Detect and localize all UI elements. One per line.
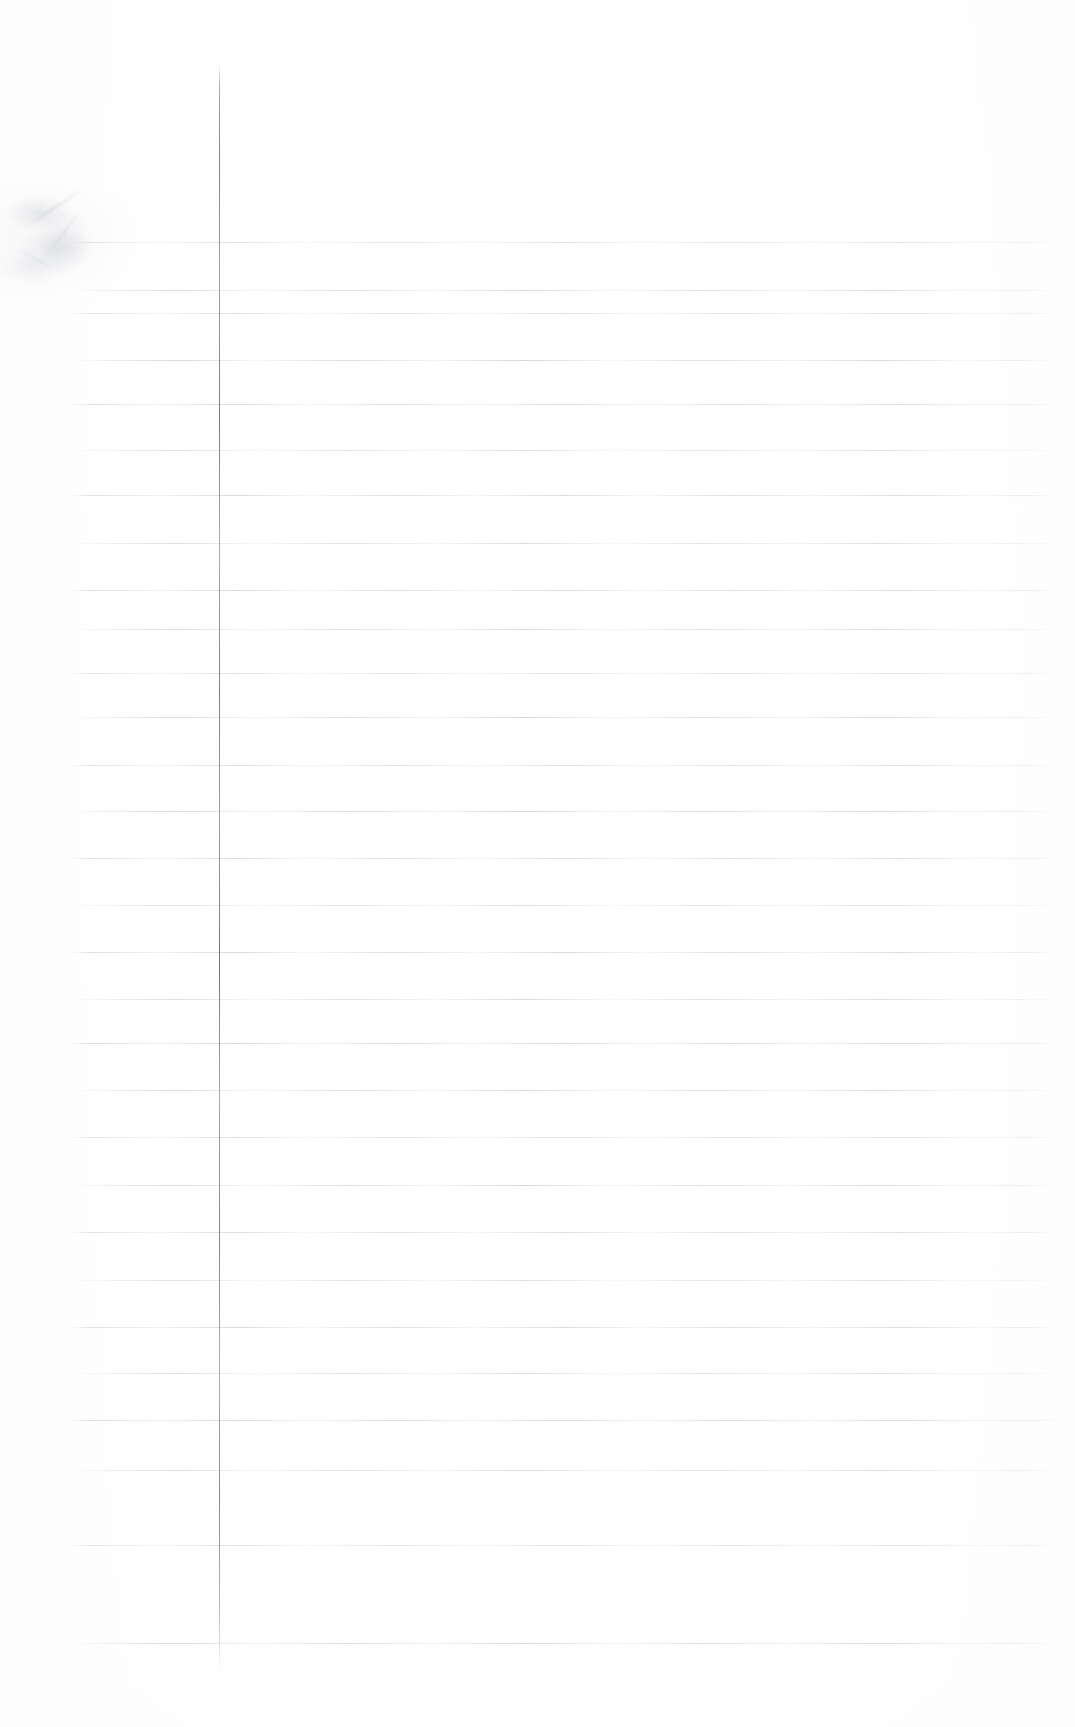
notebook-page: Scan of a blank sheet of wide-ruled note… xyxy=(0,0,1075,1727)
vertical-margin-line xyxy=(219,64,220,1672)
ruled-lines-layer xyxy=(0,0,1075,1727)
